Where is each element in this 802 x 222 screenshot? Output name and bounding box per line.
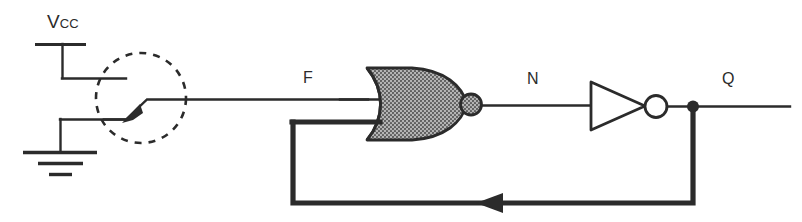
- switch-highlight-circle: [96, 53, 186, 143]
- vcc-supply-rail: [35, 44, 86, 78]
- nor-gate[interactable]: [367, 68, 482, 140]
- circuit-diagram: VCC F N Q: [0, 0, 802, 222]
- label-node-n: N: [527, 71, 539, 87]
- label-node-q: Q: [722, 71, 734, 87]
- circuit-schematic-canvas: [0, 0, 802, 222]
- label-vcc-main: V: [47, 11, 60, 32]
- nor-output-bubble: [461, 94, 482, 115]
- inverter-output-bubble: [645, 96, 667, 118]
- label-vcc-subscript: CC: [60, 16, 79, 31]
- ground-icon: [23, 153, 97, 175]
- switch-contact-lower: [60, 119, 126, 152]
- nor-input-wires: [292, 100, 380, 123]
- label-node-f: F: [303, 70, 313, 86]
- label-vcc: VCC: [47, 12, 79, 31]
- inverter-gate[interactable]: [591, 82, 667, 130]
- net-q-wire: [667, 101, 790, 113]
